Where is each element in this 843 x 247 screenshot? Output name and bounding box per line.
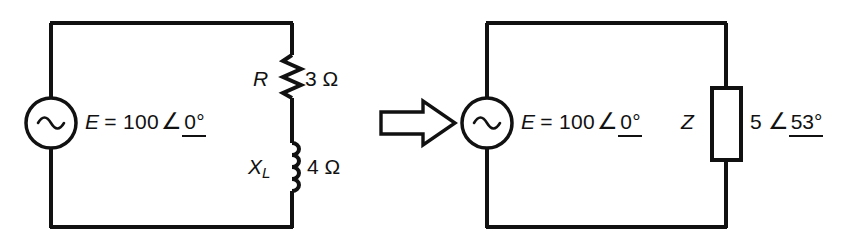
right-source-angle-group: ∠0° [595,108,642,137]
left-source-label: E= 100 ∠0° [85,108,206,137]
resistor-zigzag-icon [283,55,301,98]
inductor-label-sub: L [262,164,270,181]
impedance-value-group: 5 ∠53° [750,108,823,137]
block-arrow-right-icon [381,101,455,145]
angle-symbol-icon-right: ∠ [597,108,618,134]
inductor-value: 4 Ω [307,155,340,179]
right-source-label: E= 100 ∠0° [521,108,642,137]
resistor-value: 3 Ω [305,67,338,91]
left-source-equation: = 100 [104,110,159,133]
impedance-magnitude: 5 [750,110,762,133]
inductor-label: XL [248,155,270,181]
angle-symbol-icon-z: ∠ [768,108,789,134]
transformation-arrow-group [381,101,455,145]
right-source-angle-value: 0° [618,110,642,137]
impedance-box-icon [712,88,741,160]
resistor-label: R [253,67,268,91]
right-source-symbol: E [521,110,535,133]
left-source-symbol: E [85,110,99,133]
impedance-label: Z [681,110,694,134]
right-source-equation: = 100 [540,110,595,133]
inductor-coil-icon [292,143,299,191]
impedance-angle-value: 53° [789,110,824,137]
angle-symbol-icon: ∠ [161,108,182,134]
circuit-figure: E= 100 ∠0° R 3 Ω XL 4 Ω E= 100 ∠0° Z 5 ∠… [0,0,843,247]
impedance-angle-group: ∠53° [766,108,824,137]
left-source-angle-group: ∠0° [159,108,206,137]
left-source-angle-value: 0° [182,110,206,137]
inductor-label-x: X [248,155,262,178]
